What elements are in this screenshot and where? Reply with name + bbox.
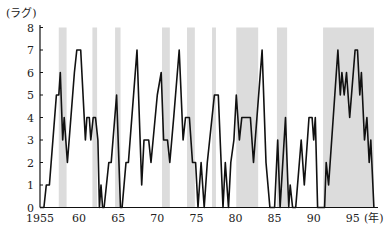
y-tick-label: 4 <box>27 112 34 125</box>
y-tick-label: 8 <box>27 22 34 35</box>
y-tick-label: 7 <box>27 44 34 57</box>
y-tick-label: 1 <box>27 179 34 192</box>
y-tick-label: 2 <box>27 157 34 170</box>
y-tick-label: 6 <box>27 67 34 80</box>
x-tick-label: 65 <box>111 212 125 225</box>
x-tick-label: 75 <box>189 212 203 225</box>
x-tick-labels: 19556065707580859095 <box>26 212 360 225</box>
x-tick-label: 90 <box>307 212 321 225</box>
x-tick-label: 95 <box>346 212 360 225</box>
y-axis-label: (ラグ) <box>6 6 37 20</box>
y-tick-label: 5 <box>27 89 34 102</box>
x-axis-label: (年) <box>364 211 384 225</box>
x-tick-label: 1955 <box>26 212 54 225</box>
recession-shading <box>59 28 374 208</box>
x-tick-label: 80 <box>229 212 243 225</box>
x-tick-label: 70 <box>150 212 164 225</box>
x-tick-label: 85 <box>268 212 282 225</box>
x-tick-label: 60 <box>72 212 86 225</box>
lag-line-chart: 012345678 19556065707580859095 (ラグ) (年) <box>0 0 391 232</box>
y-tick-label: 3 <box>27 134 34 147</box>
